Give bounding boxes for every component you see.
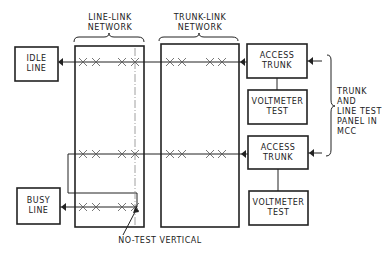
mcc-brace: [326, 55, 335, 156]
voltmeter-test-label-1: VOLTMETER TEST: [248, 97, 307, 117]
test-panel-label: TRUNK AND LINE TEST PANEL IN MCC: [337, 87, 388, 137]
idle-line-label: IDLE LINE: [15, 54, 58, 74]
voltmeter-test-label-2: VOLTMETER TEST: [249, 198, 308, 218]
trunk-link-network-box: [161, 44, 239, 227]
no-test-vertical-label: NO-TEST VERTICAL: [110, 236, 210, 246]
busy-line-label: BUSY LINE: [17, 196, 60, 216]
diagram-canvas: LINE-LINK NETWORK TRUNK-LINK NETWORK IDL…: [0, 0, 388, 255]
path-busy: [60, 154, 248, 207]
access-trunk-label-1: ACCESS TRUNK: [247, 51, 307, 71]
line-link-network-box: [75, 46, 144, 227]
trunk-link-bracket: [159, 33, 238, 41]
trunk-link-network-label: TRUNK-LINK NETWORK: [160, 13, 240, 33]
access-trunk-label-2: ACCESS TRUNK: [248, 143, 308, 163]
line-link-network-label: LINE-LINK NETWORK: [75, 13, 145, 33]
diagram-lines: [0, 0, 388, 255]
no-test-pointer: [123, 212, 135, 235]
line-link-bracket: [74, 33, 144, 42]
